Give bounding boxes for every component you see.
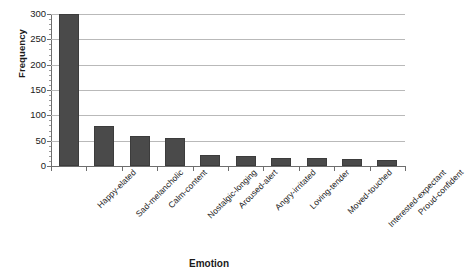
bar — [342, 159, 362, 166]
bar — [165, 138, 185, 166]
bar — [377, 160, 397, 166]
plot-area: 050100150200250300 — [51, 14, 405, 166]
bar-series — [51, 14, 405, 166]
bar — [271, 158, 291, 166]
bar — [307, 158, 327, 166]
x-tick-label: Happy-elated — [95, 168, 137, 210]
x-axis-title: Emotion — [0, 258, 418, 269]
y-tick-label: 50 — [35, 136, 46, 146]
x-tick-label: Moved-touched — [346, 168, 393, 215]
y-tick-label: 0 — [41, 161, 46, 171]
y-tick-label: 100 — [30, 111, 46, 121]
y-tick-label: 200 — [30, 60, 46, 70]
y-tick-label: 300 — [30, 9, 46, 19]
bar — [94, 126, 114, 166]
bar — [236, 156, 256, 166]
y-tick-label: 250 — [30, 35, 46, 45]
x-tick-mark — [405, 166, 406, 171]
x-axis-category-labels: Happy-elatedSad-melancholicCalm-contentN… — [51, 168, 405, 248]
y-axis-title: Frequency — [16, 9, 27, 99]
y-tick-label: 150 — [30, 85, 46, 95]
bar — [200, 155, 220, 166]
bar — [59, 14, 79, 166]
bar — [130, 136, 150, 166]
